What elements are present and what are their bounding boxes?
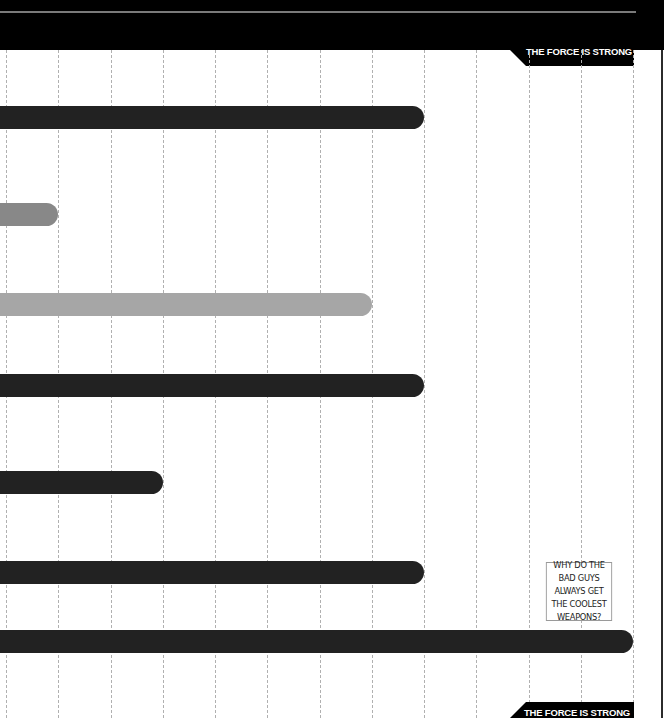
chart-bar (0, 630, 633, 653)
callout-text: WHY DO THE BAD GUYS ALWAYS GET THE COOLE… (549, 559, 610, 624)
chart-bar (0, 293, 372, 316)
top-banner-label: THE FORCE IS STRONG (526, 46, 632, 57)
header-rule (0, 11, 636, 13)
grid-line (424, 50, 425, 718)
chart-bar (0, 106, 424, 129)
chart-bar (0, 203, 58, 226)
header-banner (0, 0, 664, 50)
grid-line (529, 50, 530, 718)
chart-bar (0, 374, 424, 397)
grid-line (476, 50, 477, 718)
chart-bar (0, 561, 424, 584)
page-edge (661, 50, 663, 718)
chart-bar (0, 471, 163, 494)
grid-line (633, 50, 634, 718)
bottom-banner-label: THE FORCE IS STRONG (524, 707, 630, 718)
callout-box: WHY DO THE BAD GUYS ALWAYS GET THE COOLE… (546, 562, 612, 621)
